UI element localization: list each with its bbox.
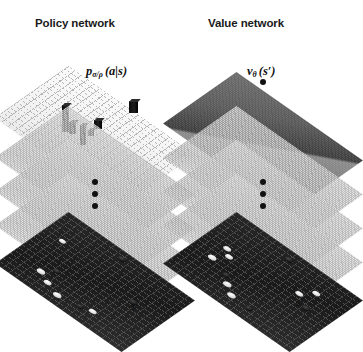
ellipsis-dot bbox=[92, 179, 98, 185]
value-label-args: (s′) bbox=[259, 64, 276, 78]
policy-network-stack bbox=[10, 78, 180, 308]
go-stone bbox=[311, 290, 322, 297]
go-stone bbox=[75, 303, 86, 310]
go-stone bbox=[283, 256, 295, 264]
go-stone bbox=[42, 279, 53, 286]
go-stone bbox=[116, 255, 128, 263]
value-network-stack bbox=[178, 78, 348, 308]
value-input-state-label: s′ bbox=[296, 296, 304, 308]
policy-input-state-label: s bbox=[131, 300, 135, 312]
ellipsis-dot bbox=[260, 191, 266, 197]
value-output-dot bbox=[260, 79, 266, 85]
ellipsis-dot bbox=[260, 203, 266, 209]
policy-output-label: pσ/ρ(a|s) bbox=[86, 64, 127, 79]
go-stone bbox=[51, 291, 63, 299]
policy-layer-ellipsis bbox=[92, 179, 98, 215]
go-stone bbox=[35, 267, 47, 275]
go-stone bbox=[58, 238, 67, 244]
go-stone bbox=[226, 291, 238, 299]
go-stone bbox=[243, 305, 254, 312]
policy-bar bbox=[129, 101, 138, 113]
ellipsis-dot bbox=[92, 203, 98, 209]
value-layer-ellipsis bbox=[260, 179, 266, 215]
ellipsis-dot bbox=[92, 191, 98, 197]
go-stone bbox=[221, 280, 233, 288]
go-stone bbox=[224, 253, 235, 260]
ellipsis-dot bbox=[260, 179, 266, 185]
value-network-title: Value network bbox=[208, 17, 284, 29]
scalar-output-dot bbox=[260, 79, 266, 85]
go-stone bbox=[88, 308, 99, 315]
policy-network-title: Policy network bbox=[35, 17, 115, 29]
value-output-label: vθ(s′) bbox=[247, 64, 275, 79]
go-stone bbox=[206, 253, 218, 261]
policy-label-args: (a|s) bbox=[105, 64, 127, 78]
go-stone bbox=[221, 271, 232, 278]
go-stone bbox=[222, 245, 233, 252]
go-stone bbox=[52, 268, 63, 275]
